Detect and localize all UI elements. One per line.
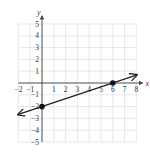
x-tick-label: 4 xyxy=(87,85,91,94)
y-tick-label: 4 xyxy=(35,31,39,40)
x-tick-label: 8 xyxy=(135,85,139,94)
x-tick-label: 2 xyxy=(64,85,68,94)
coordinate-plane: xy−2−11234567854321−1−2−3−4−5 xyxy=(0,0,150,153)
y-tick-label: −5 xyxy=(31,138,39,147)
x-tick-label: 6 xyxy=(111,85,115,94)
y-tick-label: 1 xyxy=(35,67,39,76)
y-tick-label: 2 xyxy=(35,55,39,64)
plotted-point xyxy=(110,80,116,86)
plotted-point xyxy=(39,104,45,110)
y-tick-label: −3 xyxy=(31,114,39,123)
x-tick-label: −2 xyxy=(14,85,22,94)
x-tick-label: 7 xyxy=(123,85,127,94)
x-tick-label: 3 xyxy=(76,85,80,94)
y-tick-label: 3 xyxy=(35,43,39,52)
y-tick-label: 5 xyxy=(35,20,39,29)
x-axis-label: x xyxy=(144,79,149,88)
y-tick-label: −1 xyxy=(31,90,39,99)
y-tick-label: −4 xyxy=(31,126,39,135)
y-axis-label: y xyxy=(36,8,41,17)
x-tick-label: 1 xyxy=(52,85,56,94)
